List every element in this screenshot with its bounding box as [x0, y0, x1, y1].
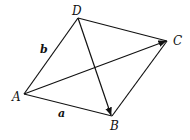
edge-ab [24, 94, 112, 116]
vertex-label-c: C [173, 34, 182, 48]
vertex-label-d: D [71, 4, 82, 18]
vector-label-b: b [40, 43, 48, 56]
vector-label-a: a [58, 107, 65, 120]
edge-da [24, 18, 78, 94]
vertex-label-a: A [11, 90, 21, 104]
edge-bc [112, 41, 167, 116]
parallelogram-diagram: D A B C b a [0, 0, 190, 140]
edge-cd [78, 18, 167, 41]
diagonal-db-arrow [78, 18, 111, 115]
vertex-label-b: B [109, 119, 119, 133]
